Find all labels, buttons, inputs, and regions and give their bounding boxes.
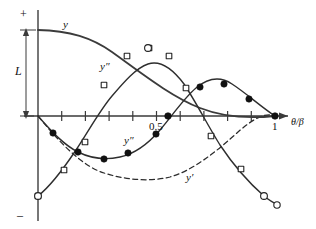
curve-label-y-prime: y′ (186, 172, 193, 183)
y-axis-plus-sign: + (20, 8, 27, 20)
x-tick-label-one: 1 (272, 121, 278, 132)
amplitude-label-L: L (15, 65, 22, 77)
x-axis-arrowhead (279, 113, 288, 120)
x-tick-label-half: 0.5 (149, 121, 163, 132)
curve-label-y-double-prime-lower: y″ (124, 135, 133, 146)
amplitude-arrow-top (23, 28, 29, 36)
plot-svg (0, 0, 316, 229)
x-axis-label: θ/β (291, 117, 304, 127)
amplitude-arrow-bottom (23, 111, 29, 119)
curve-label-y: y (63, 19, 68, 30)
axis-group (20, 10, 288, 221)
curve-label-y-double-prime-upper: y″ (100, 61, 109, 72)
y-axis-minus-sign: – (17, 209, 23, 221)
figure-canvas: + – L y y″ y″ y′ 0.5 1 θ/β (0, 0, 316, 229)
curve-y (38, 30, 275, 117)
